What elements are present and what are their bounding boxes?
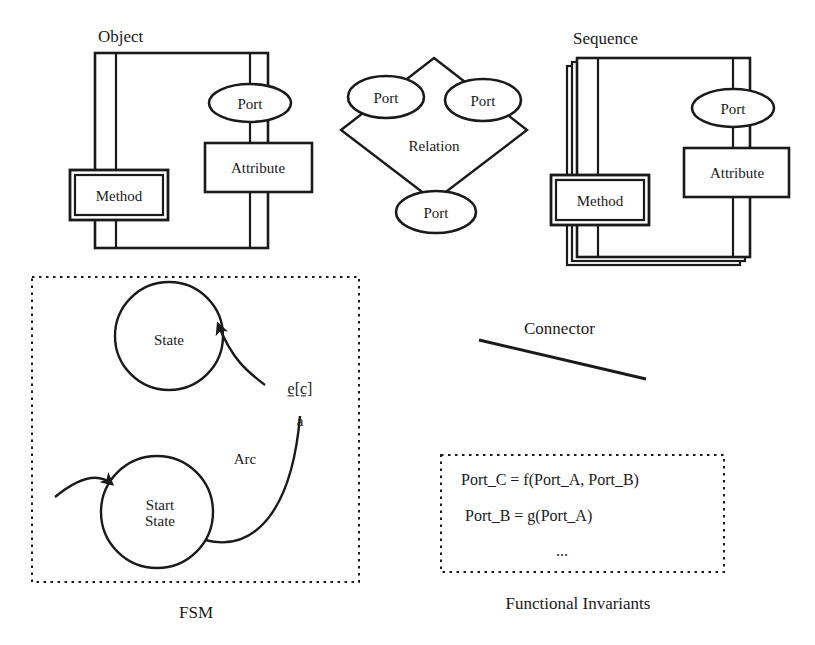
invariant-line-1: Port_C = f(Port_A, Port_B) <box>461 471 639 488</box>
figure-canvas: Object Port Attribute Method Relation Po… <box>0 0 815 645</box>
fsm-state-label: State <box>154 332 184 348</box>
connector-group-shapes <box>479 340 646 379</box>
connector-line <box>479 340 646 379</box>
sequence-attribute-label: Attribute <box>710 165 764 181</box>
sequence-method-label: Method <box>577 193 624 209</box>
fsm-event-condition-label: e[c] <box>288 380 313 397</box>
fsm-action-label: a <box>297 413 304 429</box>
fsm-start-state-label: Start State <box>145 497 175 529</box>
fsm-group-shapes <box>32 277 359 582</box>
fsm-arc-label: Arc <box>234 451 257 467</box>
relation-port-left-label: Port <box>373 90 398 106</box>
fsm-state-incoming-arrow <box>218 324 265 385</box>
invariants-caption: Functional Invariants <box>506 595 651 613</box>
fsm-start-state-line2: State <box>145 513 175 529</box>
relation-port-bottom-label: Port <box>423 205 448 221</box>
fsm-arc-path <box>205 416 300 542</box>
relation-title: Relation <box>409 138 460 154</box>
object-method-label: Method <box>96 188 143 204</box>
fsm-caption: FSM <box>179 604 213 622</box>
sequence-port-label: Port <box>720 101 745 117</box>
sequence-group-shapes <box>551 58 789 265</box>
object-attribute-label: Attribute <box>231 160 285 176</box>
diagram-vector-layer <box>0 0 815 645</box>
connector-label: Connector <box>524 320 595 338</box>
invariant-line-2: Port_B = g(Port_A) <box>465 507 592 524</box>
object-port-label: Port <box>237 96 262 112</box>
fsm-start-state-line1: Start <box>145 497 175 513</box>
relation-port-right-label: Port <box>470 93 495 109</box>
object-group-title: Object <box>98 28 143 46</box>
sequence-group-title: Sequence <box>573 30 638 48</box>
object-group-shapes <box>70 53 312 248</box>
invariant-line-3: ... <box>556 542 568 559</box>
